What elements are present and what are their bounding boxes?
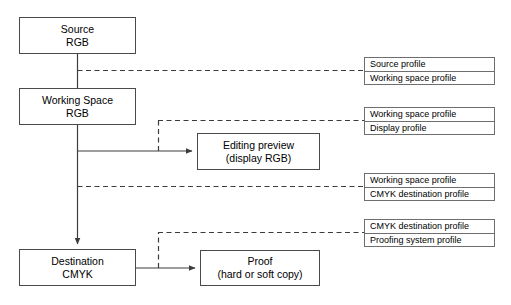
profile-table-source-to-working[interactable]: Source profile Working space profile [364, 57, 495, 85]
profile-row: Proofing system profile [365, 233, 494, 246]
node-proof-line1: Proof [247, 255, 272, 268]
node-destination[interactable]: Destination CMYK [19, 249, 136, 286]
node-source-line1: Source [61, 23, 94, 36]
profile-row: Working space profile [365, 108, 494, 121]
node-working-space-line2: RGB [66, 107, 89, 120]
profile-table-cmyk-to-proof[interactable]: CMYK destination profile Proofing system… [364, 219, 495, 247]
profile-row: CMYK destination profile [365, 187, 494, 200]
node-destination-line2: CMYK [62, 268, 92, 281]
node-destination-line1: Destination [51, 255, 104, 268]
node-source-line2: RGB [66, 36, 89, 49]
node-source[interactable]: Source RGB [19, 17, 136, 54]
profile-table-working-to-cmyk[interactable]: Working space profile CMYK destination p… [364, 173, 495, 201]
profile-row: Source profile [365, 58, 494, 71]
profile-row: Working space profile [365, 174, 494, 187]
node-working-space-line1: Working Space [42, 94, 113, 107]
node-proof[interactable]: Proof (hard or soft copy) [200, 250, 320, 286]
node-working-space[interactable]: Working Space RGB [19, 88, 136, 125]
profile-table-working-to-display[interactable]: Working space profile Display profile [364, 107, 495, 135]
diagram-canvas: Source RGB Working Space RGB Editing pre… [0, 0, 511, 305]
profile-row: Working space profile [365, 71, 494, 84]
profile-row: Display profile [365, 121, 494, 134]
node-proof-line2: (hard or soft copy) [217, 268, 302, 281]
node-editing-preview-line1: Editing preview [223, 139, 294, 152]
node-editing-preview[interactable]: Editing preview (display RGB) [197, 133, 320, 170]
node-editing-preview-line2: (display RGB) [226, 152, 291, 165]
profile-row: CMYK destination profile [365, 220, 494, 233]
